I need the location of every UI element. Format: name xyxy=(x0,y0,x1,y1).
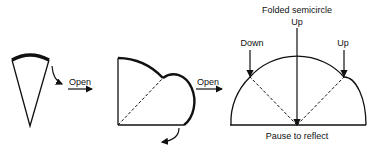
cone-thick-rim xyxy=(12,55,49,60)
diagram-title: Folded semicircle xyxy=(262,6,332,15)
open-label-1: Open xyxy=(69,78,91,87)
cone-shape xyxy=(12,55,49,126)
curved-open-arrow-1 xyxy=(52,66,62,84)
quarter-dashed-fold xyxy=(118,78,163,125)
left-dashed-fold xyxy=(250,77,297,125)
quarter-circle-shape xyxy=(118,58,194,125)
fold-label-left: Down xyxy=(240,39,263,48)
curved-fold-arrow xyxy=(162,128,179,142)
diagram-canvas xyxy=(0,0,375,152)
quarter-thick-arc xyxy=(118,58,163,78)
open-label-2: Open xyxy=(197,78,219,87)
fold-label-right: Up xyxy=(337,39,349,48)
right-dashed-fold xyxy=(297,77,344,125)
fold-label-center: Up xyxy=(291,18,303,27)
caption: Pause to reflect xyxy=(266,132,329,141)
